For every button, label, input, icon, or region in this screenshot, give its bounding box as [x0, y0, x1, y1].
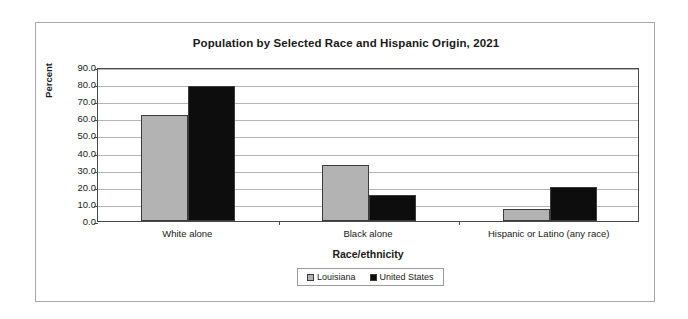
bar-united-states-hispanic-or-latino-any-race- — [550, 187, 597, 221]
gridline — [98, 103, 638, 104]
legend-swatch-icon — [370, 274, 377, 281]
x-axis-label: Race/ethnicity — [97, 248, 639, 260]
x-axis-tick-mark — [279, 221, 280, 225]
y-axis-tick-label: 90.0 — [50, 63, 96, 73]
x-axis-category-label: Black alone — [278, 228, 459, 239]
y-axis-tick-mark — [94, 137, 98, 138]
chart-title: Population by Selected Race and Hispanic… — [36, 37, 656, 49]
bar-louisiana-white-alone — [141, 115, 188, 221]
y-axis-tick-mark — [94, 206, 98, 207]
y-axis-tick-label: 50.0 — [50, 131, 96, 141]
y-axis-tick-label: 10.0 — [50, 200, 96, 210]
legend-swatch-icon — [307, 274, 314, 281]
legend-label: United States — [380, 272, 434, 282]
bar-louisiana-black-alone — [322, 165, 369, 221]
legend-label: Louisiana — [317, 272, 356, 282]
y-axis-tick-label: 20.0 — [50, 183, 96, 193]
y-axis-tick-mark — [94, 223, 98, 224]
y-axis-tick-label: 30.0 — [50, 166, 96, 176]
plot-area — [97, 68, 639, 222]
chart-figure: Population by Selected Race and Hispanic… — [35, 22, 655, 302]
y-axis-tick-mark — [94, 155, 98, 156]
bar-louisiana-hispanic-or-latino-any-race- — [503, 209, 550, 221]
y-axis-tick-label: 40.0 — [50, 149, 96, 159]
y-axis-tick-mark — [94, 120, 98, 121]
y-axis-tick-mark — [94, 172, 98, 173]
y-axis-tick-label: 0.0 — [50, 217, 96, 227]
y-axis-label: Percent — [43, 36, 54, 126]
y-axis-tick-mark — [94, 189, 98, 190]
x-axis-tick-mark — [459, 221, 460, 225]
chart-legend: LouisianaUnited States — [297, 268, 444, 286]
y-axis-tick-mark — [94, 86, 98, 87]
y-axis-tick-label: 80.0 — [50, 80, 96, 90]
gridline — [98, 86, 638, 87]
legend-item: Louisiana — [307, 272, 356, 282]
y-axis-tick-mark — [94, 69, 98, 70]
bar-united-states-black-alone — [369, 195, 416, 221]
x-axis-category-label: White alone — [97, 228, 278, 239]
y-axis-tick-label: 60.0 — [50, 114, 96, 124]
x-axis-category-label: Hispanic or Latino (any race) — [458, 228, 639, 239]
legend-item: United States — [370, 272, 434, 282]
gridline — [98, 69, 638, 70]
bar-united-states-white-alone — [188, 86, 235, 221]
y-axis-tick-label: 70.0 — [50, 97, 96, 107]
y-axis-tick-mark — [94, 103, 98, 104]
